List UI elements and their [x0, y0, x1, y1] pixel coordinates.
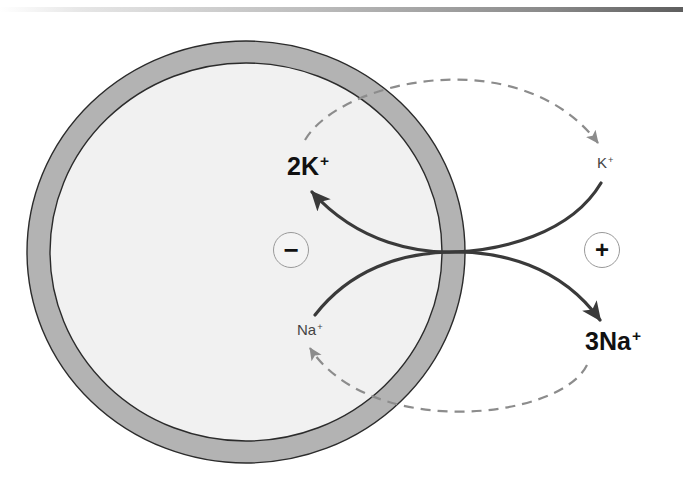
- positive-charge-icon: +: [584, 232, 620, 268]
- negative-charge-icon: −: [273, 232, 309, 268]
- outside-sodium-charge: +: [632, 327, 641, 344]
- outside-sodium-text: 3Na: [585, 327, 631, 355]
- outside-sodium-label: 3Na+: [585, 328, 641, 354]
- inside-sodium-text: Na: [297, 321, 316, 338]
- positive-charge-symbol: +: [595, 236, 609, 264]
- inside-sodium-charge: +: [317, 322, 322, 332]
- cell: [27, 41, 465, 463]
- inside-potassium-charge: +: [320, 152, 329, 169]
- outside-potassium-label: K+: [597, 155, 613, 170]
- pump-diagram: [0, 0, 683, 481]
- cell-interior: [50, 63, 442, 441]
- negative-charge-symbol: −: [283, 235, 298, 266]
- inside-potassium-label: 2K+: [287, 153, 329, 179]
- inside-potassium-text: 2K: [287, 152, 319, 180]
- inside-sodium-label: Na+: [297, 322, 323, 337]
- outside-potassium-charge: +: [608, 155, 613, 165]
- outside-potassium-text: K: [597, 154, 607, 171]
